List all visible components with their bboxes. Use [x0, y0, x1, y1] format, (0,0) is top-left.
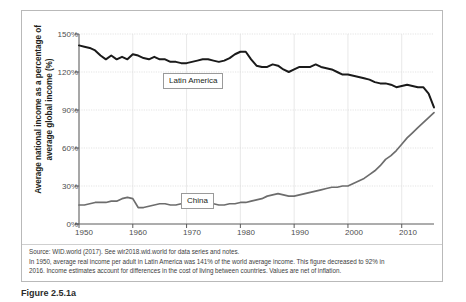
plot-area: Average national income as a percentage …	[22, 11, 442, 243]
y-tick-label-60: 60%	[48, 144, 78, 153]
series-label-latin-america: Latin America	[163, 73, 223, 89]
y-tick-label-120: 120%	[48, 68, 78, 77]
x-tick-label-1960: 1960	[118, 228, 158, 237]
x-tick-label-1950: 1950	[64, 228, 104, 237]
x-tick-label-1980: 1980	[226, 228, 266, 237]
x-tick-label-1970: 1970	[172, 228, 212, 237]
chart-canvas	[22, 11, 442, 243]
notes-block: Source: WID.world (2017). See wir2018.wi…	[29, 247, 437, 276]
series-line-latin-america	[79, 45, 434, 107]
y-tick-label-90: 90%	[48, 106, 78, 115]
series-lines	[79, 45, 434, 207]
notes-divider	[22, 244, 442, 245]
figure-caption: Figure 2.5.1a	[21, 288, 461, 298]
note-source: Source: WID.world (2017). See wir2018.wi…	[29, 247, 437, 257]
note-explanation-line1: In 1950, average real income per adult i…	[29, 257, 437, 267]
series-label-china: China	[181, 193, 214, 209]
x-tick-label-2000: 2000	[334, 228, 374, 237]
x-tick-label-1990: 1990	[280, 228, 320, 237]
x-tick-label-2010: 2010	[388, 228, 428, 237]
note-explanation-line2: 2016. Income estimates account for diffe…	[29, 266, 437, 276]
figure-container: Average national income as a percentage …	[21, 10, 443, 282]
series-line-china	[79, 113, 434, 208]
y-tick-label-30: 30%	[48, 182, 78, 191]
y-tick-label-150: 150%	[48, 30, 78, 39]
gridlines	[79, 34, 434, 224]
